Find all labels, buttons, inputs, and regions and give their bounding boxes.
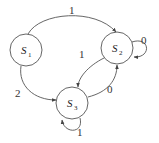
- edge-label-s1-s2: 1: [69, 4, 75, 16]
- state-diagram: 1 0 1 0 2 1 S 1 S 2 S 3: [0, 0, 159, 143]
- edge-s2-to-s3: [78, 58, 104, 87]
- edge-label-s2-s3: 1: [79, 48, 85, 60]
- state-s2: S 2: [101, 32, 133, 64]
- edge-label-s2-loop: 0: [141, 34, 147, 46]
- edge-label-s1-s3: 2: [15, 87, 21, 99]
- state-s3-subscript: 3: [74, 104, 78, 112]
- state-s1: S 1: [10, 34, 42, 66]
- state-s3: S 3: [56, 87, 88, 119]
- state-s3-label: S: [67, 97, 73, 109]
- edge-s1-to-s2: [28, 16, 116, 34]
- state-s1-subscript: 1: [28, 51, 32, 59]
- edge-label-s3-loop: 1: [77, 126, 83, 138]
- edge-s3-to-s2: [88, 65, 117, 97]
- edge-label-s3-s2: 0: [107, 83, 113, 95]
- state-s2-label: S: [112, 42, 118, 54]
- edge-s1-to-s3: [21, 66, 56, 100]
- state-s2-subscript: 2: [119, 49, 123, 57]
- state-s1-label: S: [21, 44, 27, 56]
